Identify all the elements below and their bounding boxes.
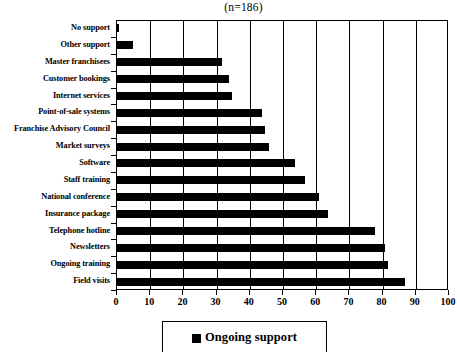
bar (116, 227, 375, 235)
x-axis-tick (282, 290, 283, 295)
y-axis-label: Franchise Advisory Council (0, 121, 113, 138)
x-axis-tick (249, 290, 250, 295)
bar-series-ongoing-support (116, 20, 448, 290)
x-axis-tick (149, 290, 150, 295)
x-axis-tick (182, 290, 183, 295)
chart-title: (n=186) (0, 1, 457, 13)
x-axis-tick (348, 290, 349, 295)
y-axis-label: Customer bookings (0, 71, 113, 88)
x-axis-tick (216, 290, 217, 295)
bar (116, 58, 222, 66)
y-axis-label: Master franchisees (0, 54, 113, 71)
y-axis-category-labels: No supportOther supportMaster franchisee… (0, 20, 113, 290)
bar (116, 41, 133, 49)
bar-row (116, 155, 448, 172)
bar (116, 278, 405, 286)
bar-row (116, 206, 448, 223)
bar-row (116, 239, 448, 256)
y-axis-label: Telephone hotline (0, 223, 113, 240)
y-axis-label: Staff training (0, 172, 113, 189)
x-axis-label: 100 (428, 296, 457, 307)
bar-row (116, 172, 448, 189)
bar (116, 92, 232, 100)
x-axis-tick (448, 290, 449, 295)
y-axis-label: Other support (0, 37, 113, 54)
x-axis-tick (382, 290, 383, 295)
x-axis-tick (116, 290, 117, 295)
y-axis-label: Software (0, 155, 113, 172)
y-axis-label: Ongoing training (0, 256, 113, 273)
legend-label: Ongoing support (205, 330, 297, 345)
y-axis-label: Internet services (0, 88, 113, 105)
bar (116, 75, 229, 83)
bar (116, 159, 295, 167)
y-axis-label: Insurance package (0, 206, 113, 223)
bar (116, 176, 305, 184)
bar-row (116, 256, 448, 273)
bar-row (116, 104, 448, 121)
x-axis-tick (415, 290, 416, 295)
legend-swatch-icon (192, 334, 201, 343)
bar-row (116, 20, 448, 37)
y-axis-label: National conference (0, 189, 113, 206)
bar-row (116, 121, 448, 138)
chart-root: (n=186) No supportOther supportMaster fr… (0, 0, 457, 352)
y-axis-label: Newsletters (0, 239, 113, 256)
bar-row (116, 273, 448, 290)
bar-row (116, 54, 448, 71)
x-axis-tick (315, 290, 316, 295)
bar-row (116, 223, 448, 240)
bar (116, 24, 119, 32)
y-axis-label: Field visits (0, 273, 113, 290)
bar (116, 261, 388, 269)
bar (116, 244, 385, 252)
bar (116, 193, 319, 201)
bar (116, 210, 328, 218)
y-axis-label: Market surveys (0, 138, 113, 155)
bar (116, 109, 262, 117)
bar-row (116, 37, 448, 54)
bar (116, 126, 265, 134)
bar-row (116, 71, 448, 88)
chart-legend: Ongoing support (162, 321, 327, 352)
y-axis-label: Point-of-sale systems (0, 104, 113, 121)
y-axis-label: No support (0, 20, 113, 37)
bar (116, 143, 269, 151)
bar-row (116, 189, 448, 206)
bar-row (116, 138, 448, 155)
bar-row (116, 88, 448, 105)
